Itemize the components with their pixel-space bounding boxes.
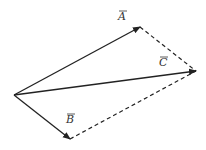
vector-c-label-group: C <box>159 56 168 69</box>
vector-b-label-group: B <box>65 113 75 126</box>
vector-a-arrow <box>14 27 140 95</box>
dashed-edge-a-to-c <box>140 27 196 71</box>
dashed-edge-b-to-c <box>70 71 196 139</box>
vector-b-label: B <box>65 113 74 126</box>
vector-c-arrow <box>14 71 196 95</box>
vector-a-label: A <box>117 10 126 23</box>
vector-a-label-group: A <box>117 10 127 23</box>
vector-c-label: C <box>159 56 168 69</box>
vector-diagram: A B C <box>0 0 206 150</box>
vector-b-arrow <box>14 95 70 139</box>
